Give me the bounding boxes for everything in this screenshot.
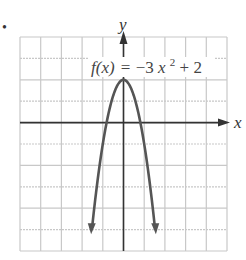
equation-lhs: f(x) <box>91 58 115 77</box>
x-axis-label: x <box>233 113 242 132</box>
equation-variable: x <box>157 58 166 77</box>
equation-exponent: 2 <box>170 56 176 68</box>
equation-equals: = <box>121 58 131 77</box>
parabola-chart: y x f(x) = −3 x 2 + 2 <box>0 0 246 260</box>
equation-constant: + 2 <box>180 58 202 77</box>
y-axis-label: y <box>117 15 127 34</box>
equation-coefficient: −3 <box>136 58 154 77</box>
function-label: f(x) = −3 x 2 + 2 <box>89 51 214 77</box>
